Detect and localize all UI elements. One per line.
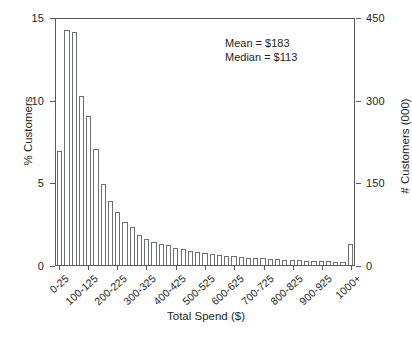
y-axis-tick-mark-right xyxy=(356,101,361,102)
x-axis-tick-mark xyxy=(351,266,352,270)
bar-slot xyxy=(325,19,332,265)
bar xyxy=(101,184,106,265)
x-axis-tick-mark xyxy=(293,266,294,270)
y-axis-tick-left: 15 xyxy=(0,13,44,24)
bar xyxy=(93,149,98,265)
bar-slot xyxy=(187,19,194,265)
bar xyxy=(246,258,251,265)
y-axis-tick-left: 10 xyxy=(0,95,44,106)
y-axis-tick-right: 300 xyxy=(366,95,410,106)
bar-slot xyxy=(150,19,157,265)
bar xyxy=(86,116,91,265)
x-axis-tick-mark xyxy=(146,266,147,270)
bar xyxy=(57,151,62,265)
bar xyxy=(159,244,164,265)
bar-slot xyxy=(85,19,92,265)
bar-slot xyxy=(136,19,143,265)
x-axis-label: Total Spend ($) xyxy=(0,310,412,322)
bar-slot xyxy=(172,19,179,265)
bar xyxy=(181,249,186,265)
bar xyxy=(275,259,280,265)
x-axis-tick-label: 0-25 xyxy=(47,272,71,295)
x-axis-tick-mark xyxy=(117,266,118,270)
bar xyxy=(72,32,77,265)
bar xyxy=(340,262,345,265)
x-axis-tick-mark xyxy=(59,266,60,270)
x-axis-tick-mark xyxy=(88,266,89,270)
bar-series xyxy=(56,19,354,265)
bar xyxy=(64,30,69,265)
bar xyxy=(122,222,127,265)
plot-area xyxy=(55,18,355,266)
bar-slot xyxy=(143,19,150,265)
bar xyxy=(151,242,156,265)
y-axis-tick-right: 150 xyxy=(366,178,410,189)
y-axis-label-right: # Customers (000) xyxy=(399,66,411,226)
bar-slot xyxy=(78,19,85,265)
bar-slot xyxy=(310,19,317,265)
bar xyxy=(311,261,316,265)
bar xyxy=(115,212,120,265)
bar xyxy=(253,258,258,265)
bar-slot xyxy=(347,19,354,265)
y-axis-tick-right: 0 xyxy=(366,261,410,272)
bar xyxy=(210,254,215,265)
bar xyxy=(195,252,200,265)
bar-slot xyxy=(201,19,208,265)
bar-slot xyxy=(318,19,325,265)
median-annotation: Median = $113 xyxy=(225,50,297,64)
bar xyxy=(188,251,193,265)
bar-slot xyxy=(158,19,165,265)
bar-slot xyxy=(92,19,99,265)
x-axis-tick-mark xyxy=(264,266,265,270)
x-axis-tick-mark xyxy=(322,266,323,270)
bar-slot xyxy=(121,19,128,265)
bar xyxy=(333,262,338,265)
bar-slot xyxy=(63,19,70,265)
bar-slot xyxy=(56,19,63,265)
bar xyxy=(348,244,353,265)
bar xyxy=(137,235,142,265)
bar-slot xyxy=(114,19,121,265)
bar xyxy=(130,227,135,265)
bar xyxy=(144,239,149,265)
histogram-figure: % Customers # Customers (000) Mean = $18… xyxy=(0,0,412,343)
y-axis-tick-mark-right xyxy=(356,266,361,267)
y-axis-tick-mark-left xyxy=(50,101,55,102)
x-axis-tick-label: 1000+ xyxy=(333,272,363,301)
bar xyxy=(260,258,265,265)
bar xyxy=(108,201,113,265)
bar-slot xyxy=(194,19,201,265)
y-axis-tick-mark-left xyxy=(50,18,55,19)
y-axis-tick-mark-right xyxy=(356,183,361,184)
y-axis-tick-left: 5 xyxy=(0,178,44,189)
bar xyxy=(231,256,236,265)
x-axis-tick-label: 600-625 xyxy=(209,272,246,307)
bar-slot xyxy=(129,19,136,265)
bar-slot xyxy=(339,19,346,265)
x-axis-tick-mark xyxy=(205,266,206,270)
bar-slot xyxy=(216,19,223,265)
bar xyxy=(304,261,309,265)
bar-slot xyxy=(332,19,339,265)
bar xyxy=(173,248,178,265)
bar xyxy=(282,260,287,265)
y-axis-tick-mark-left xyxy=(50,266,55,267)
y-axis-tick-mark-left xyxy=(50,183,55,184)
bar-slot xyxy=(71,19,78,265)
bar xyxy=(290,260,295,265)
bar xyxy=(239,257,244,265)
y-axis-tick-left: 0 xyxy=(0,261,44,272)
bar xyxy=(217,255,222,265)
y-axis-tick-mark-right xyxy=(356,18,361,19)
mean-annotation: Mean = $183 xyxy=(225,36,297,50)
bar xyxy=(326,261,331,265)
x-axis-tick-mark xyxy=(234,266,235,270)
x-axis-tick-label: 700-725 xyxy=(238,272,275,307)
x-axis-tick-label: 300-325 xyxy=(121,272,158,307)
bar xyxy=(268,259,273,265)
bar-slot xyxy=(100,19,107,265)
bar-slot xyxy=(209,19,216,265)
bar xyxy=(224,256,229,265)
bar xyxy=(166,245,171,265)
